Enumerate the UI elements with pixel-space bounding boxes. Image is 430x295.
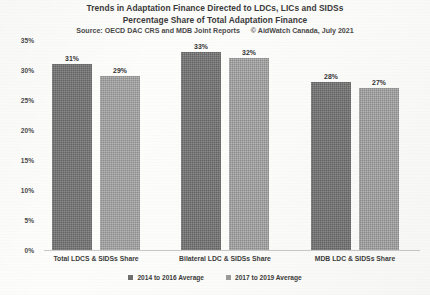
plot-area: 31%29%33%32%28%27%: [44, 40, 420, 250]
legend-swatch-icon: [128, 275, 133, 280]
bar[interactable]: [52, 64, 92, 250]
legend-label: 2014 to 2016 Average: [137, 274, 204, 281]
y-axis-tick-label: 20%: [21, 127, 34, 134]
y-axis-tick-label: 0%: [24, 247, 34, 254]
y-axis-tick-label: 25%: [21, 97, 34, 104]
chart-credit: © AidWatch Canada, July 2021: [251, 27, 354, 35]
legend-label: 2017 to 2019 Average: [235, 274, 302, 281]
bar-value-label: 32%: [229, 49, 269, 56]
chart-legend: 2014 to 2016 Average2017 to 2019 Average: [0, 274, 430, 281]
bar-value-label: 33%: [181, 43, 221, 50]
bar[interactable]: [311, 82, 351, 250]
bar-value-label: 31%: [52, 55, 92, 62]
y-axis: 35%30%25%20%15%10%5%0%: [0, 40, 40, 251]
chart-source: Source: OECD DAC CRS and MDB Joint Repor…: [76, 27, 240, 35]
bar-group: 31%29%: [52, 40, 140, 250]
chart-title: Trends in Adaptation Finance Directed to…: [0, 3, 430, 15]
chart-title-block: Trends in Adaptation Finance Directed to…: [0, 3, 430, 36]
chart-container: Trends in Adaptation Finance Directed to…: [0, 0, 430, 295]
bar[interactable]: [100, 76, 140, 250]
bar[interactable]: [229, 58, 269, 250]
bar-group: 28%27%: [311, 40, 399, 250]
bar-value-label: 28%: [311, 73, 351, 80]
x-axis-category-label: MDB LDC & SIDSs Share: [285, 255, 425, 262]
bar[interactable]: [359, 88, 399, 250]
y-axis-tick-label: 5%: [24, 217, 34, 224]
y-axis-tick-label: 10%: [21, 187, 34, 194]
legend-item[interactable]: 2014 to 2016 Average: [128, 274, 204, 281]
x-axis-baseline: [44, 250, 420, 251]
bar-value-label: 29%: [100, 67, 140, 74]
x-axis-category-label: Bilateral LDC & SIDSs Share: [155, 255, 295, 262]
y-axis-tick-label: 30%: [21, 67, 34, 74]
y-axis-tick-label: 35%: [21, 37, 34, 44]
bar[interactable]: [181, 52, 221, 250]
x-axis-category-label: Total LDCS & SIDSs Share: [26, 255, 166, 262]
chart-subtitle: Percentage Share of Total Adaptation Fin…: [0, 15, 430, 27]
legend-item[interactable]: 2017 to 2019 Average: [226, 274, 302, 281]
bar-value-label: 27%: [359, 79, 399, 86]
chart-source-line: Source: OECD DAC CRS and MDB Joint Repor…: [0, 26, 430, 36]
y-axis-tick-label: 15%: [21, 157, 34, 164]
bar-group: 33%32%: [181, 40, 269, 250]
legend-swatch-icon: [226, 275, 231, 280]
